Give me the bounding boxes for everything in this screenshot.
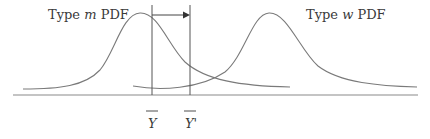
pdf-shift-diagram: Type m PDF Type w PDF Y Y' bbox=[0, 0, 430, 139]
type-m-pdf-label: Type m PDF bbox=[48, 7, 129, 22]
shifted-mean-y-label: Y' bbox=[185, 116, 197, 131]
mean-y-label: Y bbox=[148, 116, 158, 131]
type-w-pdf-label: Type w PDF bbox=[306, 7, 386, 22]
type-m-pdf-curve bbox=[23, 13, 290, 89]
shift-arrow-head-icon bbox=[183, 12, 190, 19]
